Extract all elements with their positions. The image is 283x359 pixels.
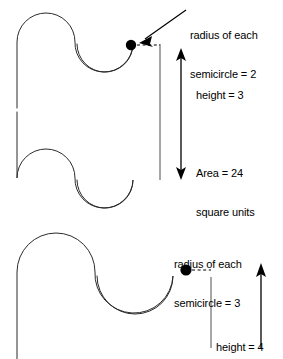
bottom-height-label: height = 4 — [216, 341, 264, 354]
top-radius-label-line1: radius of each — [190, 29, 258, 42]
top-radius-label-line2: semicircle = 2 — [190, 68, 258, 81]
top-height-label: height = 3 — [196, 89, 244, 102]
figure-root: radius of each semicircle = 2 height = 3… — [0, 0, 283, 359]
bottom-radius-label-line2: semicircle = 3 — [174, 297, 242, 310]
top-shape-outline — [17, 13, 133, 108]
bottom-radius-label: radius of each semicircle = 3 — [174, 232, 242, 336]
top-radius-callout-arrow — [139, 10, 186, 47]
top-area-label-line2: square units — [196, 206, 255, 219]
top-radius-center-dot — [126, 40, 136, 50]
bottom-height-dimension-arrow — [256, 263, 266, 349]
top-diagram-group — [17, 10, 186, 208]
top-area-label-line1: Area = 24 — [196, 167, 255, 180]
bottom-shape-outline — [17, 233, 173, 359]
top-shape-lower-wave — [17, 112, 133, 208]
top-area-label: Area = 24 square units — [196, 141, 255, 245]
bottom-radius-label-line1: radius of each — [174, 258, 242, 271]
top-height-dimension-arrow — [176, 48, 186, 180]
